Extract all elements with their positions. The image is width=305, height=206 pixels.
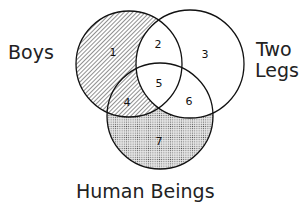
human-beings-label: Human Beings (76, 180, 215, 202)
region-3: 3 (202, 48, 209, 61)
region-5: 5 (156, 77, 163, 90)
region-1: 1 (110, 46, 117, 59)
venn-diagram: 1 2 3 4 5 6 7 (0, 0, 305, 206)
region-6: 6 (186, 95, 193, 108)
region-7: 7 (156, 135, 163, 148)
boys-label: Boys (8, 41, 54, 63)
two-legs-label-line1: Two (256, 38, 292, 60)
region-4: 4 (124, 96, 131, 109)
two-legs-label-line2: Legs (255, 59, 299, 81)
region-2: 2 (155, 38, 162, 51)
